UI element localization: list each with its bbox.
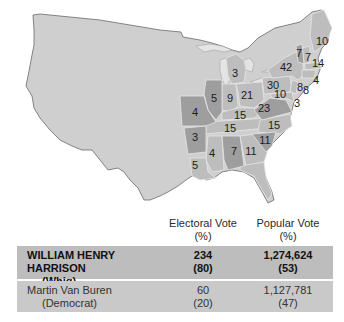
- label-il: 5: [211, 92, 217, 104]
- popular-vote-value: 1,127,781: [248, 284, 328, 297]
- label-ky: 15: [234, 109, 246, 121]
- electoral-vote-header: Electoral Vote (%): [163, 217, 243, 243]
- popular-vote-title: Popular Vote: [248, 217, 328, 230]
- candidate-party: (Democrat): [27, 297, 167, 310]
- candidate-name: WILLIAM HENRY HARRISON: [27, 249, 115, 274]
- electoral-vote-title: Electoral Vote: [163, 217, 243, 230]
- label-ct: 8: [303, 84, 309, 96]
- table-row-harrison: WILLIAM HENRY HARRISON (Whig) 234 (80) 1…: [17, 246, 333, 279]
- electoral-vote-unit: (%): [163, 230, 243, 243]
- label-va: 23: [258, 102, 270, 114]
- label-mo: 4: [192, 106, 198, 118]
- table-row-van-buren: Martin Van Buren (Democrat) 60 (20) 1,12…: [17, 281, 333, 312]
- electoral-vote-pct: (80): [163, 262, 243, 275]
- electoral-vote-cell: 60 (20): [163, 284, 243, 310]
- label-me: 10: [316, 35, 328, 47]
- label-de: 3: [294, 97, 300, 109]
- popular-vote-pct: (53): [248, 262, 328, 275]
- label-nh: 7: [296, 47, 302, 59]
- electoral-vote-value: 60: [163, 284, 243, 297]
- electoral-vote-cell: 234 (80): [163, 249, 243, 275]
- label-ga: 11: [245, 145, 256, 157]
- label-sc: 11: [259, 134, 270, 146]
- label-nc: 15: [268, 119, 280, 131]
- label-vt: 7: [305, 51, 311, 63]
- label-ms: 4: [209, 147, 215, 159]
- popular-vote-cell: 1,274,624 (53): [248, 249, 328, 275]
- popular-vote-unit: (%): [248, 230, 328, 243]
- popular-vote-pct: (47): [248, 297, 328, 310]
- label-ar: 3: [192, 131, 198, 143]
- label-al: 7: [231, 145, 237, 157]
- results-table: WILLIAM HENRY HARRISON (Whig) 234 (80) 1…: [17, 246, 333, 312]
- popular-vote-header: Popular Vote (%): [248, 217, 328, 243]
- label-la: 5: [192, 159, 198, 171]
- electoral-vote-pct: (20): [163, 297, 243, 310]
- candidate-cell: Martin Van Buren (Democrat): [17, 281, 167, 312]
- label-in: 9: [227, 92, 233, 104]
- popular-vote-value: 1,274,624: [248, 249, 328, 262]
- electoral-vote-value: 234: [163, 249, 243, 262]
- label-oh: 21: [241, 89, 253, 101]
- label-mi: 3: [232, 67, 238, 79]
- election-map-1840: 10 7 7 14 42 4 8 8 30 10 3 3 5 9 21 4 15…: [0, 0, 344, 215]
- label-ma: 14: [312, 57, 324, 69]
- label-nj: 8: [297, 81, 303, 93]
- label-ny: 42: [280, 61, 292, 73]
- label-md: 10: [274, 88, 286, 100]
- label-tn: 15: [224, 122, 236, 134]
- candidate-name: Martin Van Buren: [27, 284, 112, 296]
- candidate-cell: WILLIAM HENRY HARRISON (Whig): [17, 246, 167, 279]
- popular-vote-cell: 1,127,781 (47): [248, 284, 328, 310]
- label-ri: 4: [313, 74, 319, 86]
